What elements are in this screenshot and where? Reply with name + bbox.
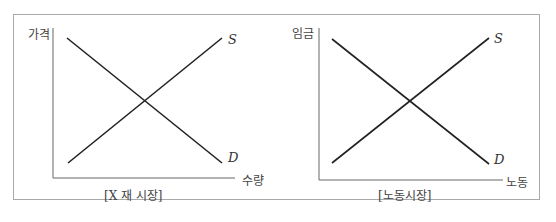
diagram-lines [0, 0, 556, 222]
right-supply-label: S [494, 31, 503, 46]
left-demand-label: D [228, 150, 238, 165]
right-demand-label: D [494, 152, 504, 167]
right-chart-caption: [노동시장] [378, 186, 431, 203]
left-supply-label: S [228, 32, 237, 47]
right-x-axis-label: 노동 [506, 173, 528, 190]
right-y-axis-label: 임금 [292, 24, 314, 41]
left-chart-caption: [X 재 시장] [104, 186, 163, 203]
left-y-axis-label: 가격 [28, 25, 50, 42]
left-x-axis-label: 수량 [242, 171, 264, 188]
